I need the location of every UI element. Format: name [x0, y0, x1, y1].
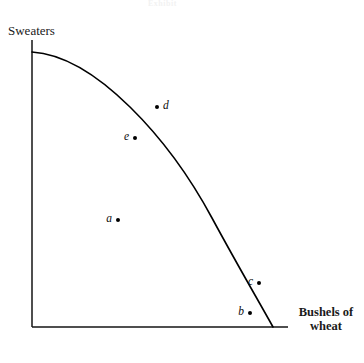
- data-point-dot-b: [248, 311, 252, 315]
- data-point-dot-e: [133, 136, 137, 140]
- data-point-dot-a: [116, 218, 120, 222]
- data-point-label-a: a: [106, 213, 112, 224]
- data-point-label-d: d: [163, 100, 169, 111]
- x-axis-label-line2: wheat: [291, 319, 361, 333]
- data-point-label-c: c: [248, 276, 253, 287]
- data-point-dot-d: [155, 105, 159, 109]
- data-point-label-e: e: [124, 131, 129, 142]
- x-axis-label-line1: Bushels of: [291, 305, 361, 319]
- data-point-label-b: b: [238, 306, 244, 317]
- ppf-figure: Exhibit Sweaters Bushels of wheat deacb: [0, 0, 364, 363]
- y-axis-label: Sweaters: [8, 23, 55, 39]
- x-axis-label: Bushels of wheat: [291, 305, 361, 333]
- data-point-dot-c: [257, 281, 261, 285]
- ppf-curve: [32, 52, 273, 327]
